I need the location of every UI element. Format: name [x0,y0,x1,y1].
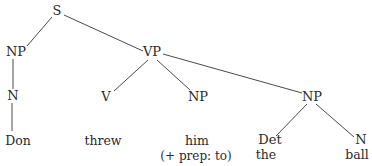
node-v: V [101,90,110,104]
node-np-object: NP [302,90,322,104]
edge-vp-np-ball [163,54,302,93]
edge-s-vp [64,15,143,51]
edge-np-n-ball [316,104,354,137]
word-threw: threw [84,134,121,148]
node-n-subject: N [7,89,18,103]
node-det: Det [258,133,281,147]
edge-vp-v [114,60,148,91]
edge-vp-np-him [157,60,190,90]
node-n-object: N [355,133,366,147]
word-don: Don [5,134,31,148]
node-s: S [53,4,62,18]
syntax-tree-diagram: S NP VP N V NP NP Det N Don threw him (+… [0,0,372,166]
node-np-subject: NP [6,45,26,59]
node-vp: VP [143,45,161,59]
node-np-indirect: NP [188,90,208,104]
edge-s-np [27,17,52,46]
word-the: the [256,148,276,162]
word-ball: ball [345,148,368,162]
word-him-note: (+ prep: to) [160,149,231,163]
word-him: him [185,134,209,148]
